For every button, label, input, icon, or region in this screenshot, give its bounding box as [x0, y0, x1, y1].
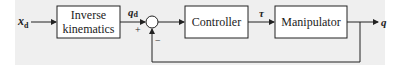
svg-text:Inverse: Inverse — [71, 8, 106, 22]
controller-block: Controller — [185, 6, 248, 38]
tau-label: τ — [259, 7, 265, 19]
svg-text:Manipulator: Manipulator — [281, 15, 340, 29]
svg-text:Controller: Controller — [192, 15, 241, 29]
plus-sign: + — [135, 24, 141, 35]
qd-label: qd — [128, 6, 139, 19]
minus-sign: − — [155, 35, 161, 46]
svg-text:xd: xd — [17, 14, 29, 30]
svg-text:qd: qd — [128, 6, 139, 19]
block-diagram: xd Inverse kinematics qd + − Controller … — [0, 0, 400, 71]
svg-text:kinematics: kinematics — [63, 22, 115, 36]
summing-junction — [146, 16, 158, 28]
input-xd-label: xd — [17, 14, 29, 30]
manipulator-block: Manipulator — [275, 6, 347, 38]
output-q-label: q — [381, 16, 387, 28]
inverse-kinematics-block: Inverse kinematics — [57, 6, 120, 38]
